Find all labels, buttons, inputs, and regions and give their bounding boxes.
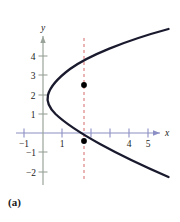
x-axis-arrowhead <box>153 130 160 135</box>
parabola-curve <box>48 29 169 177</box>
graph-figure: x y −1 1 4 5 4 3 2 1 −1 −2 <box>0 0 180 222</box>
y-tick-label--2: −2 <box>26 168 36 178</box>
y-tick-label-3: 3 <box>31 71 36 81</box>
figure-caption: (a) <box>8 196 21 208</box>
x-tick-label-4: 4 <box>127 139 132 149</box>
y-tick-label-4: 4 <box>31 52 36 62</box>
intersection-point-lower <box>81 138 87 144</box>
x-axis-label: x <box>164 128 170 138</box>
intersection-point-upper <box>81 82 87 88</box>
y-tick-label-2: 2 <box>31 91 36 101</box>
y-axis-label: y <box>40 23 46 33</box>
x-tick-label-1: 1 <box>60 139 65 149</box>
x-tick-label-5: 5 <box>146 139 151 149</box>
y-tick-label-1: 1 <box>31 110 36 120</box>
y-axis-arrowhead <box>40 36 45 43</box>
y-tick-label--1: −1 <box>26 148 36 158</box>
